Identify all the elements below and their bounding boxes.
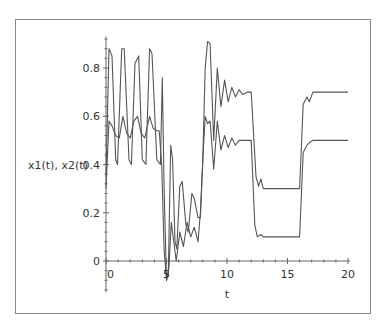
x-tick-label: 20: [341, 268, 355, 281]
series-line-x2t: [106, 116, 348, 280]
y-axis-label: x1(t), x2(t): [28, 159, 88, 172]
series-line-x1t: [106, 42, 348, 281]
x-tick-label: 15: [281, 268, 295, 281]
y-tick-label: 0.8: [83, 62, 101, 75]
y-tick-label: 0.6: [83, 110, 101, 123]
x-axis-label: t: [225, 288, 230, 301]
y-tick-label: 0: [93, 255, 100, 268]
data-lines: [106, 42, 348, 281]
x-tick-label: 0: [107, 268, 114, 281]
y-tick-label: 0.2: [83, 207, 101, 220]
x-tick-label: 10: [220, 268, 234, 281]
x-tick-label: 5: [163, 268, 170, 281]
axes: [103, 37, 350, 293]
line-chart: 0510152000.20.40.60.8tx1(t), x2(t): [0, 0, 387, 333]
